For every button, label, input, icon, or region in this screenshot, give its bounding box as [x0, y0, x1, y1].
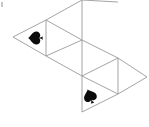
net-diagram-canvas — [0, 0, 149, 127]
net-faces — [13, 0, 147, 112]
net-diagram-figure — [0, 0, 149, 127]
face-top-clip — [82, 0, 118, 40]
stray-mark-icon — [1, 2, 3, 7]
face-right — [118, 58, 147, 94]
